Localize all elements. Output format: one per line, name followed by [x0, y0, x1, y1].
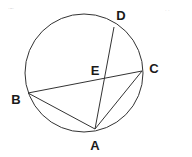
- corner-mark-left: ·~·: [8, 5, 15, 11]
- chord-ab: [28, 93, 95, 129]
- point-label-c: C: [149, 61, 159, 76]
- geometry-diagram: ·~· · · A B C D E: [0, 0, 192, 157]
- point-label-b: B: [11, 92, 20, 107]
- point-label-e: E: [91, 63, 100, 78]
- circle: [25, 14, 143, 132]
- chord-bc: [28, 71, 142, 93]
- corner-mark-right: · ·: [165, 7, 170, 13]
- chord-ad: [95, 27, 114, 129]
- point-label-a: A: [90, 138, 100, 153]
- point-label-d: D: [116, 8, 125, 23]
